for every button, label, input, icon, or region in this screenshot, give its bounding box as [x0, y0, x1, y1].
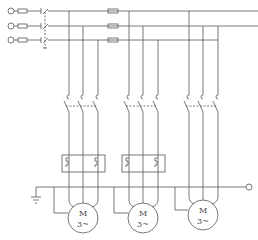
motor-1-phase: 3~ — [77, 220, 89, 229]
motor-3-label: M — [199, 206, 207, 215]
motor-3: M 3~ — [188, 200, 218, 230]
motor-2-label: M — [139, 209, 147, 218]
main-fuses — [18, 9, 41, 42]
branch-2 — [122, 11, 165, 207]
motor-1-label: M — [79, 209, 87, 218]
motor-3-phase: 3~ — [197, 217, 209, 226]
branch-fuses — [108, 9, 118, 42]
motor-2: M 3~ — [128, 203, 158, 233]
motor-1: M 3~ — [68, 203, 98, 233]
main-isolator-switch — [41, 8, 48, 48]
branch-1 — [62, 11, 105, 207]
bus-bars — [48, 11, 258, 40]
input-terminals — [8, 8, 18, 43]
motor-2-phase: 3~ — [137, 220, 149, 229]
motor-control-schematic: M 3~ M 3~ M 3~ — [0, 0, 258, 240]
